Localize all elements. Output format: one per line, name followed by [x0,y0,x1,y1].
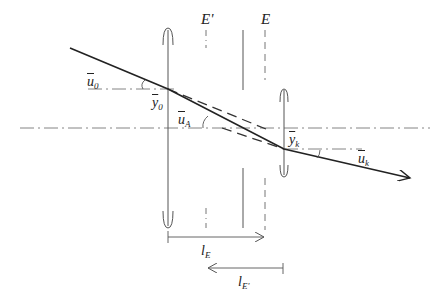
label-y0: y0 [152,96,163,112]
dimension-l-e-prime [208,263,283,274]
label-e: E [261,12,270,27]
label-uk: uk [358,152,369,168]
label-yk: yk [289,133,299,149]
label-uA: uA [178,113,191,129]
angle-arc-u0 [142,80,145,89]
angle-arc-uA [203,116,208,128]
optical-diagram: u0 y0 uA yk uk E' E lE lE' [0,0,440,306]
label-l-e: lE [201,244,210,260]
label-e-prime: E' [201,12,213,27]
construction-ray-lower [222,128,284,149]
label-u0: u0 [87,75,99,91]
lens-2 [280,89,288,177]
diagram-svg [0,0,440,306]
dimension-l-e [168,231,264,243]
label-l-e-prime: lE' [238,275,249,291]
